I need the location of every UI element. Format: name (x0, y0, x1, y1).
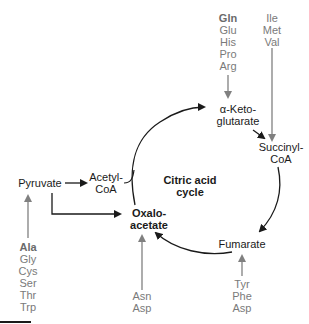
arrow-akg-to-succinyl (253, 130, 264, 138)
amino-acids-succinyl: Ile Met Val (258, 12, 286, 48)
aa-gln: Gln (214, 12, 242, 24)
amino-acids-akg: Gln Glu His Pro Arg (214, 12, 242, 72)
node-oxaloacetate: Oxalo- acetate (122, 207, 176, 231)
aa-asn: Asn (128, 290, 156, 302)
node-fumarate: Fumarate (214, 238, 270, 250)
cycle-title: Citric acid cycle (160, 174, 220, 198)
aa-trp: Trp (14, 301, 42, 313)
aa-thr: Thr (14, 289, 42, 301)
amino-acids-pyruvate: Ala Gly Cys Ser Thr Trp (14, 241, 42, 313)
aa-ala: Ala (14, 241, 42, 253)
aa-ile: Ile (258, 12, 286, 24)
node-pyruvate: Pyruvate (14, 177, 66, 189)
arrow-pyruvate-to-oxaloacetate (52, 193, 120, 214)
aa-his: His (214, 36, 242, 48)
node-alpha-ketoglutarate: α-Keto- glutarate (206, 103, 270, 127)
amino-acids-oxaloacetate: Asn Asp (128, 290, 156, 314)
node-acetyl-coa: Acetyl- CoA (88, 171, 124, 195)
arrow-succinyl-to-fumarate (260, 167, 280, 231)
aa-val: Val (258, 36, 286, 48)
aa-ser: Ser (14, 277, 42, 289)
aa-asp-2: Asp (228, 302, 256, 314)
aa-arg: Arg (214, 60, 242, 72)
aa-tyr: Tyr (228, 278, 256, 290)
aa-asp: Asp (128, 302, 156, 314)
amino-acids-fumarate: Tyr Phe Asp (228, 278, 256, 314)
aa-glu: Glu (214, 24, 242, 36)
aa-phe: Phe (228, 290, 256, 302)
aa-pro: Pro (214, 48, 242, 60)
aa-cys: Cys (14, 265, 42, 277)
aa-gly: Gly (14, 253, 42, 265)
aa-met: Met (258, 24, 286, 36)
node-succinyl-coa: Succinyl- CoA (252, 141, 309, 165)
